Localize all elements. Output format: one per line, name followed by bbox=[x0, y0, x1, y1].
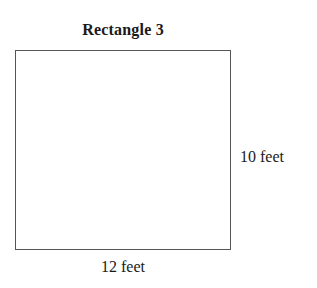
diagram-title: Rectangle 3 bbox=[15, 21, 231, 39]
rectangle-shape bbox=[15, 50, 231, 250]
height-label: 10 feet bbox=[240, 148, 284, 166]
width-label: 12 feet bbox=[15, 258, 231, 276]
